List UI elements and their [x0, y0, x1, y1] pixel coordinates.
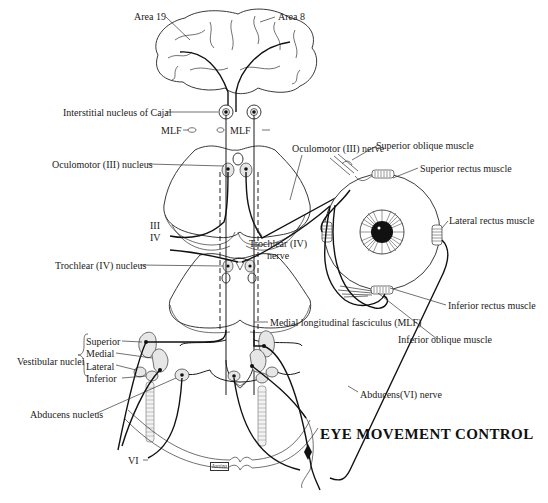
- vestibular-lateral-leader: [116, 365, 136, 370]
- inferior-rectus-muscle: [371, 286, 393, 294]
- label-abducens-nucleus: Abducens nucleus: [30, 409, 103, 420]
- label-inferior-oblique: Inferior oblique muscle: [398, 334, 492, 345]
- label-vi: VI: [128, 455, 139, 466]
- lateral-rectus-leader: [442, 221, 448, 228]
- artist-signature: Ianiza: [210, 462, 229, 471]
- label-lateral-rectus: Lateral rectus muscle: [449, 215, 535, 226]
- label-trochlear-nerve-line1: Trochlear (IV): [242, 238, 314, 249]
- label-area-19: Area 19: [134, 11, 166, 22]
- lateral-rectus-muscle: [432, 225, 442, 245]
- superior-rectus-muscle: [372, 170, 394, 178]
- label-mlf-right: MLF: [230, 125, 251, 136]
- label-abducens-nerve: Abducens(VI) nerve: [360, 389, 442, 400]
- label-nerve-iv: IV: [150, 232, 161, 243]
- interstitial-nuclei: [219, 105, 261, 119]
- label-interstitial-nucleus: Interstitial nucleus of Cajal: [63, 107, 172, 118]
- abducens-nerve-leader: [348, 386, 358, 392]
- label-oculomotor-nerve: Oculomotor (III) nerve: [292, 143, 384, 154]
- label-vestibular-superior: Superior: [86, 336, 120, 347]
- label-trochlear-nerve-line2: nerve: [242, 250, 314, 261]
- mlf-left-marker: [183, 128, 196, 133]
- label-vestibular-nuclei: Vestibular nuclei: [17, 356, 84, 367]
- label-trochlear-nucleus: Trochlear (IV) nucleus: [55, 260, 146, 271]
- label-superior-rectus: Superior rectus muscle: [420, 163, 512, 174]
- label-area-8: Area 8: [278, 11, 305, 22]
- superior-rectus-leader: [393, 168, 418, 178]
- eyeball: [324, 174, 440, 290]
- label-nerve-iii: III: [150, 220, 160, 231]
- label-vestibular-lateral: Lateral: [86, 361, 114, 372]
- label-oculomotor-nucleus: Oculomotor (III) nucleus: [52, 159, 153, 170]
- diagram-title: EYE MOVEMENT CONTROL: [320, 426, 534, 443]
- midbrain-slice: [164, 146, 310, 250]
- label-inferior-rectus: Inferior rectus muscle: [448, 300, 536, 311]
- brain-illustration: [156, 9, 317, 115]
- label-mlf-left: MLF: [161, 125, 182, 136]
- label-mlf-full: Medial longitudinal fasciculus (MLF): [270, 317, 421, 328]
- label-vestibular-inferior: Inferior: [86, 373, 117, 384]
- label-superior-oblique: Superior oblique muscle: [376, 140, 474, 151]
- label-vestibular-medial: Medial: [86, 348, 114, 359]
- inferior-rectus-leader: [390, 288, 446, 305]
